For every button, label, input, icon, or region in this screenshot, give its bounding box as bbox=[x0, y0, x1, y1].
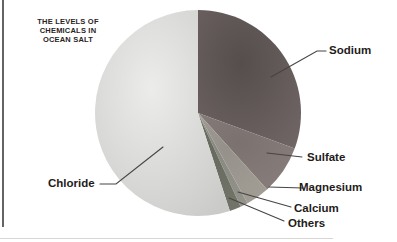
pie-chart: Sodium Sulfate Magnesium Calcium Others … bbox=[0, 0, 397, 242]
label-sulfate: Sulfate bbox=[307, 151, 345, 163]
leader-line-others bbox=[229, 198, 284, 221]
label-chloride: Chloride bbox=[48, 177, 95, 189]
label-others: Others bbox=[288, 217, 325, 229]
label-magnesium: Magnesium bbox=[299, 181, 362, 193]
pie-slices bbox=[95, 10, 301, 216]
label-sodium: Sodium bbox=[329, 44, 371, 56]
leader-line-magnesium bbox=[269, 187, 303, 188]
slide-canvas: THE LEVELS OF CHEMICALS IN OCEAN SALT So… bbox=[0, 0, 397, 242]
label-calcium: Calcium bbox=[294, 202, 339, 214]
